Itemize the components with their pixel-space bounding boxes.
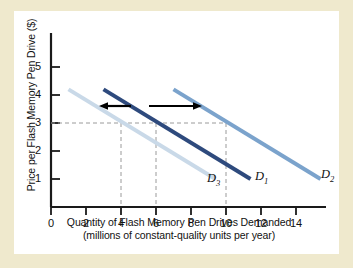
y-tick-label-2: 2 <box>30 144 46 156</box>
chart-panel: Price per Flash Memory Pen Drive ($) <box>14 11 339 254</box>
demand-curve-D1 <box>104 89 251 179</box>
curve-label-D1: D1 <box>255 169 268 186</box>
y-tick-label-1: 1 <box>30 172 46 184</box>
x-axis-label-line1: Quantity of Flash Memory Pen Drives Dema… <box>34 216 324 229</box>
x-axis-ticks <box>51 207 296 215</box>
y-tick-label-3: 3 <box>30 116 46 128</box>
figure-frame: Price per Flash Memory Pen Drive ($) <box>0 0 353 268</box>
x-axis-label: Quantity of Flash Memory Pen Drives Dema… <box>34 216 324 242</box>
curve-label-D3: D3 <box>207 171 220 188</box>
y-tick-label-4: 4 <box>30 88 46 100</box>
curve-label-D2: D2 <box>321 167 334 184</box>
x-axis-label-line2: (millions of constant-quality units per … <box>34 229 324 242</box>
y-tick-label-5: 5 <box>30 60 46 72</box>
increase-in-demand-arrow <box>149 102 202 110</box>
